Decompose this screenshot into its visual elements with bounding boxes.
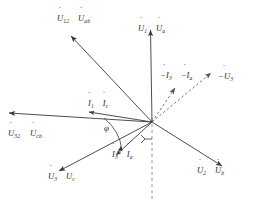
label-u2-sub: 2 — [203, 170, 206, 176]
vector-neg-u3 — [152, 73, 211, 122]
label-phi-angle: φ — [104, 124, 109, 133]
vector-u2-ub — [152, 122, 222, 166]
label-neg-u3-symbol: −U — [218, 71, 230, 81]
label-neg-u3-sub: 3 — [230, 76, 233, 82]
label-u12-uab: U12 Uab — [57, 14, 90, 23]
label-ucb-sub: cb — [36, 133, 42, 139]
label-u32-sub: 32 — [14, 133, 20, 139]
label-uab-sub: ab — [84, 18, 90, 24]
label-u2-ub: U2 Ub — [197, 166, 224, 175]
label-i1-sub: 1 — [91, 103, 94, 109]
label-neg-i3-ia: −I3 −Ia — [160, 71, 193, 80]
label-i3-ia: I3 Ia — [112, 150, 133, 159]
label-i3-sub: 3 — [115, 154, 118, 160]
vector-neg-i3-ia — [152, 88, 175, 122]
phasor-diagram-canvas: U12 Uab U1 Ua U32 Ucb U3 Uc U2 Ub I1 Ic … — [0, 0, 260, 210]
label-u1-sub: 1 — [144, 28, 147, 34]
label-u3-uc: U3 Uc — [48, 172, 75, 181]
label-u3-sub: 3 — [54, 176, 57, 182]
vector-i1-ic — [89, 112, 152, 122]
label-neg-u3: −U3 — [218, 72, 233, 81]
label-ua-sub: a — [162, 28, 165, 34]
label-neg-i3-sub: 3 — [169, 75, 172, 81]
label-i1-ic: I1 Ic — [88, 99, 108, 108]
label-uc-sub: c — [72, 176, 75, 182]
label-u32-ucb: U32 Ucb — [8, 129, 42, 138]
vector-u1-ua — [151, 30, 153, 122]
label-ia-sub: a — [130, 154, 133, 160]
label-u1-ua: U1 Ua — [138, 24, 165, 33]
label-neg-ia-sub: a — [190, 75, 193, 81]
label-ub-sub: b — [221, 170, 224, 176]
phasor-vector-graphics — [0, 0, 260, 210]
label-neg-i3-symbol: −I — [160, 70, 169, 80]
angle-tick-lower — [141, 135, 145, 143]
label-u12-sub: 12 — [63, 18, 69, 24]
vector-u12-uab — [71, 36, 152, 122]
label-neg-ia-symbol: −I — [181, 70, 190, 80]
